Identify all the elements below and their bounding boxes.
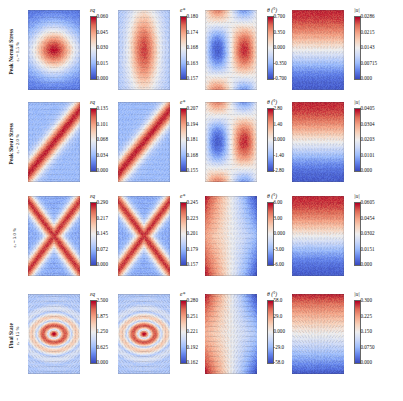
colorbar-tick-label: 0.245 bbox=[187, 199, 198, 205]
panel-r2c3-theta: θ (°)2.801.400.000-1.40-2.80 bbox=[205, 96, 295, 192]
specimen-field-image bbox=[28, 102, 80, 182]
colorbar-title: εq bbox=[90, 99, 95, 105]
colorbar-title: εq bbox=[90, 7, 95, 13]
colorbar-tick-label: 0.300 bbox=[361, 297, 372, 303]
row-label-peak-shear-stress: Peak Shear Stressεₐ = 2.0 % bbox=[2, 96, 28, 192]
colorbar-tick-label: 0.030 bbox=[97, 44, 108, 50]
colorbar-tick-label: -3.00 bbox=[274, 246, 285, 252]
panel-r3c3-theta: θ (°)6.003.000.000-3.00-6.00 bbox=[205, 190, 295, 286]
colorbar-ticks: 0.3000.2250.1500.07500.000 bbox=[361, 297, 391, 365]
colorbar-tick-label: 0.000 bbox=[97, 359, 108, 365]
panel-r1c1-eq: εq0.0600.0450.0300.0150.000 bbox=[28, 4, 118, 100]
panel-r1c3-theta: θ (°)0.7000.3500.000-0.350-0.700 bbox=[205, 4, 295, 100]
specimen-field-image bbox=[205, 102, 257, 182]
row-label-post-peak: εₐ = 3.0 % bbox=[2, 190, 28, 286]
specimen-field-image bbox=[205, 294, 257, 374]
colorbar-tick-label: 0.194 bbox=[187, 121, 198, 127]
colorbar-tick-label: 0.207 bbox=[187, 105, 198, 111]
colorbar-ticks: 0.06050.04540.03020.01510.000 bbox=[361, 199, 391, 267]
colorbar-tick-label: 0.162 bbox=[187, 359, 198, 365]
specimen-field-image bbox=[28, 196, 80, 276]
colorbar-tick-label: 0.0454 bbox=[361, 215, 375, 221]
colorbar-tick-label: 0.251 bbox=[187, 313, 198, 319]
colorbar-u_mag: |u|0.02860.02150.01430.007150.000 bbox=[354, 16, 388, 90]
colorbar-tick-label: 0.000 bbox=[274, 136, 285, 142]
colorbar-tick-label: 1.250 bbox=[97, 328, 108, 334]
colorbar-tick-label: 1.40 bbox=[274, 121, 283, 127]
panel-r2c1-eq: εq0.1350.1010.0680.0340.000 bbox=[28, 96, 118, 192]
row-label-final-state: Final Stateεₐ = 15 % bbox=[2, 288, 28, 384]
colorbar-tick-label: 0.145 bbox=[97, 230, 108, 236]
colorbar-tick-label: -6.00 bbox=[274, 261, 285, 267]
colorbar-tick-label: 58.0 bbox=[274, 297, 283, 303]
colorbar-tick-label: 0.000 bbox=[274, 230, 285, 236]
colorbar-tick-label: 0.0215 bbox=[361, 29, 375, 35]
colorbar-tick-label: 0.157 bbox=[187, 75, 198, 81]
row-label-strain: εₐ = 1.5 % bbox=[15, 29, 21, 75]
panel-r1c4-u_mag: |u|0.02860.02150.01430.007150.000 bbox=[292, 4, 382, 100]
colorbar-title: e* bbox=[180, 291, 185, 297]
specimen-field-image bbox=[292, 294, 344, 374]
specimen-field-image bbox=[28, 10, 80, 90]
colorbar-u_mag: |u|0.06050.04540.03020.01510.000 bbox=[354, 202, 388, 276]
colorbar-u_mag: |u|0.3000.2250.1500.07500.000 bbox=[354, 300, 388, 374]
colorbar-tick-label: 0.625 bbox=[97, 344, 108, 350]
colorbar-title: |u| bbox=[354, 291, 360, 297]
specimen-field-image bbox=[205, 196, 257, 276]
colorbar-title: |u| bbox=[354, 7, 360, 13]
colorbar-tick-label: 0.135 bbox=[97, 105, 108, 111]
colorbar-tick-label: 0.068 bbox=[97, 136, 108, 142]
colorbar-tick-label: 0.000 bbox=[361, 167, 372, 173]
panel-row-post-peak: εₐ = 3.0 %εq0.2900.2170.1450.0720.000e*0… bbox=[0, 190, 403, 286]
colorbar-tick-label: 0.221 bbox=[187, 328, 198, 334]
colorbar-tick-label: 0.192 bbox=[187, 344, 198, 350]
colorbar-tick-label: 0.0143 bbox=[361, 44, 375, 50]
colorbar-tick-label: 0.00715 bbox=[361, 60, 378, 66]
row-label-strain: εₐ = 2.0 % bbox=[15, 123, 21, 164]
colorbar-tick-label: 0.0304 bbox=[361, 121, 375, 127]
panel-r1c2-e_star: e*0.1800.1740.1680.1630.157 bbox=[118, 4, 208, 100]
colorbar-tick-label: -0.700 bbox=[274, 75, 287, 81]
colorbar-tick-label: 0.072 bbox=[97, 246, 108, 252]
panel-r3c2-e_star: e*0.2450.2230.2010.1790.157 bbox=[118, 190, 208, 286]
colorbar-tick-label: 0.0203 bbox=[361, 136, 375, 142]
colorbar-tick-label: 0.217 bbox=[97, 215, 108, 221]
specimen-field-image bbox=[118, 102, 170, 182]
colorbar-tick-label: 0.000 bbox=[97, 261, 108, 267]
colorbar-tick-label: 0.280 bbox=[187, 297, 198, 303]
colorbar-tick-label: 29.0 bbox=[274, 313, 283, 319]
colorbar-tick-label: 6.00 bbox=[274, 199, 283, 205]
colorbar-ticks: 0.04050.03040.02030.01010.000 bbox=[361, 105, 391, 173]
panel-r4c4-u_mag: |u|0.3000.2250.1500.07500.000 bbox=[292, 288, 382, 384]
colorbar-tick-label: -0.350 bbox=[274, 60, 287, 66]
colorbar-tick-label: 0.034 bbox=[97, 152, 108, 158]
panel-row-peak-normal-stress: Peak Normal Stressεₐ = 1.5 %εq0.0600.045… bbox=[0, 4, 403, 100]
panel-r2c2-e_star: e*0.2070.1940.1810.1680.155 bbox=[118, 96, 208, 192]
colorbar-title: e* bbox=[180, 193, 185, 199]
colorbar-tick-label: 0.180 bbox=[187, 13, 198, 19]
colorbar-title: εq bbox=[90, 193, 95, 199]
panel-r3c1-eq: εq0.2900.2170.1450.0720.000 bbox=[28, 190, 118, 286]
colorbar-tick-label: -58.0 bbox=[274, 359, 285, 365]
colorbar-tick-label: 0.168 bbox=[187, 152, 198, 158]
colorbar-title: |u| bbox=[354, 193, 360, 199]
colorbar-tick-label: 0.0750 bbox=[361, 344, 375, 350]
colorbar-tick-label: 2.80 bbox=[274, 105, 283, 111]
colorbar-title: e* bbox=[180, 99, 185, 105]
specimen-field-image bbox=[292, 196, 344, 276]
colorbar-tick-label: 0.201 bbox=[187, 230, 198, 236]
colorbar-tick-label: 0.163 bbox=[187, 60, 198, 66]
colorbar-tick-label: 0.000 bbox=[274, 44, 285, 50]
colorbar-tick-label: 2.500 bbox=[97, 297, 108, 303]
specimen-field-image bbox=[28, 294, 80, 374]
colorbar-tick-label: -2.80 bbox=[274, 167, 285, 173]
specimen-field-image bbox=[118, 294, 170, 374]
row-label-strain: εₐ = 3.0 % bbox=[12, 228, 18, 248]
colorbar-tick-label: 0.000 bbox=[97, 75, 108, 81]
colorbar-tick-label: 0.0605 bbox=[361, 199, 375, 205]
colorbar-tick-label: 0.0286 bbox=[361, 13, 375, 19]
figure-panel-grid: Peak Normal Stressεₐ = 1.5 %εq0.0600.045… bbox=[0, 0, 403, 401]
colorbar-tick-label: 0.000 bbox=[361, 75, 372, 81]
colorbar-title: e* bbox=[180, 7, 185, 13]
specimen-field-image bbox=[118, 10, 170, 90]
